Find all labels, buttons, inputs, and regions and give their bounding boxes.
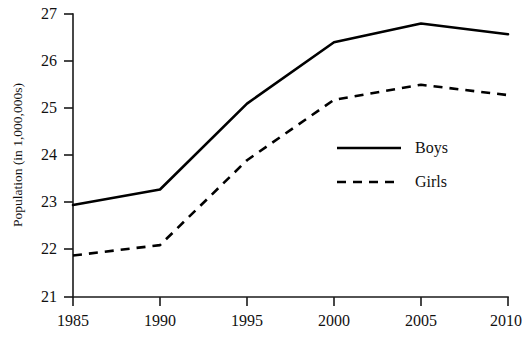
line-chart: 27 26 25 24 23 22 21 1985 1990 1995 2000… [0,0,527,352]
x-tick-label-1985: 1985 [57,312,89,329]
chart-legend: Boys Girls [337,139,448,190]
y-axis-ticks [64,14,73,297]
y-tick-label-27: 27 [41,5,57,22]
y-tick-label-26: 26 [41,52,57,69]
x-tick-label-1990: 1990 [144,312,176,329]
y-tick-label-23: 23 [41,193,57,210]
x-tick-label-2000: 2000 [318,312,350,329]
y-tick-label-22: 22 [41,240,57,257]
x-axis-tick-labels: 1985 1990 1995 2000 2005 2010 [57,312,522,329]
x-tick-label-2005: 2005 [405,312,437,329]
series-line-girls [73,85,508,256]
chart-canvas: 27 26 25 24 23 22 21 1985 1990 1995 2000… [0,0,527,352]
x-tick-label-2010: 2010 [490,312,522,329]
x-axis-ticks [73,297,508,306]
y-axis-title: Population (in 1,000,000s) [10,83,25,227]
legend-label-girls: Girls [415,173,447,190]
x-tick-label-1995: 1995 [231,312,263,329]
y-tick-label-24: 24 [41,146,57,163]
y-tick-label-25: 25 [41,99,57,116]
legend-label-boys: Boys [415,139,448,157]
y-axis-tick-labels: 27 26 25 24 23 22 21 [41,5,57,305]
y-tick-label-21: 21 [41,288,57,305]
